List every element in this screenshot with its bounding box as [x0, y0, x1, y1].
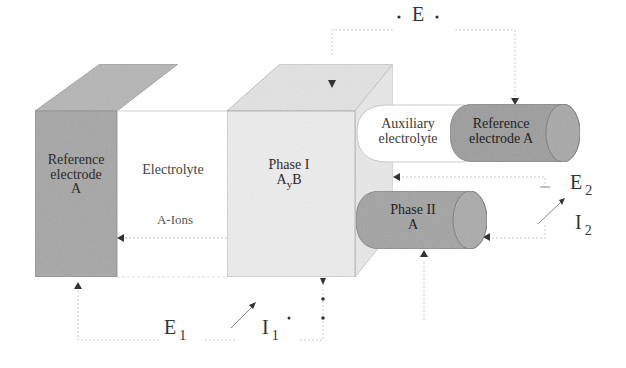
electrolyte-label: Electrolyte [120, 163, 226, 178]
label-i1: I1 [262, 317, 279, 338]
label-e1: E1 [164, 317, 186, 338]
label-e: E [408, 4, 428, 25]
phase1-front [227, 111, 355, 277]
phase2-label: Phase II A [370, 203, 456, 232]
label-i2: I2 [575, 212, 592, 233]
phase1-label: Phase I AyB [244, 158, 334, 187]
auxiliary-electrolyte-label: Auxiliary electrolyte [362, 117, 454, 146]
reference-electrode-a-label: Reference electrode A [451, 117, 551, 146]
reference-electrode-label: Reference electrode A [35, 153, 117, 197]
a-ions-label: A-Ions [130, 213, 220, 227]
i1-diagonal [231, 307, 252, 328]
cylinder-end-cap [546, 104, 580, 162]
label-e2: E2 [570, 172, 592, 193]
reference-electrode-top [35, 64, 178, 111]
arrow-left-aux [393, 173, 400, 181]
arrow-up-ref-electrode [74, 282, 82, 289]
arrow-down-phase1-bottom [320, 278, 326, 285]
cylinder-end-cap [453, 191, 487, 249]
arrow-i2 [559, 198, 565, 205]
reference-electrode-label-line1: Reference [35, 153, 117, 168]
phase1-formula: AyB [244, 173, 334, 188]
arrow-left-a-ions [117, 234, 124, 242]
i2-diagonal [538, 202, 561, 224]
reference-electrode-label-line2: electrode [35, 168, 117, 183]
arrow-i1 [249, 302, 256, 309]
reference-electrode-label-line3: A [35, 182, 117, 197]
arrow-up-phase2 [420, 250, 428, 257]
electrolyte-region [117, 111, 227, 277]
phase1-label-line1: Phase I [244, 158, 334, 173]
